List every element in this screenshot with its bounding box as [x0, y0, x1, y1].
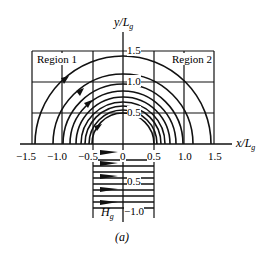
y-axis-label: y/Lg [114, 15, 133, 31]
x-tick-1.5: 1.5 [208, 150, 222, 162]
x-tick-neg-1.5: −1.5 [16, 150, 36, 162]
x-tick-0.5: 0.5 [147, 150, 161, 162]
x-tick-1.0: 1.0 [178, 150, 192, 162]
region-1-label: Region 1 [37, 53, 77, 65]
y-tick-neg-1.0: −1.0 [124, 205, 144, 217]
gap-label: Hg [101, 205, 114, 221]
figure-caption: (a) [115, 230, 129, 245]
x-tick-0: 0 [120, 150, 126, 162]
y-tick-0.5: 0.5 [127, 106, 141, 118]
x-axis-label: x/Lg [236, 136, 255, 152]
x-tick-neg-1.0: −1.0 [47, 150, 67, 162]
region-2-label: Region 2 [172, 53, 212, 65]
y-tick-1.0: 1.0 [127, 75, 141, 87]
y-tick-neg-0.5: 0.5 [127, 175, 141, 187]
x-tick-neg-0.5: −0.5 [78, 150, 98, 162]
y-tick-1.5: 1.5 [127, 44, 141, 56]
